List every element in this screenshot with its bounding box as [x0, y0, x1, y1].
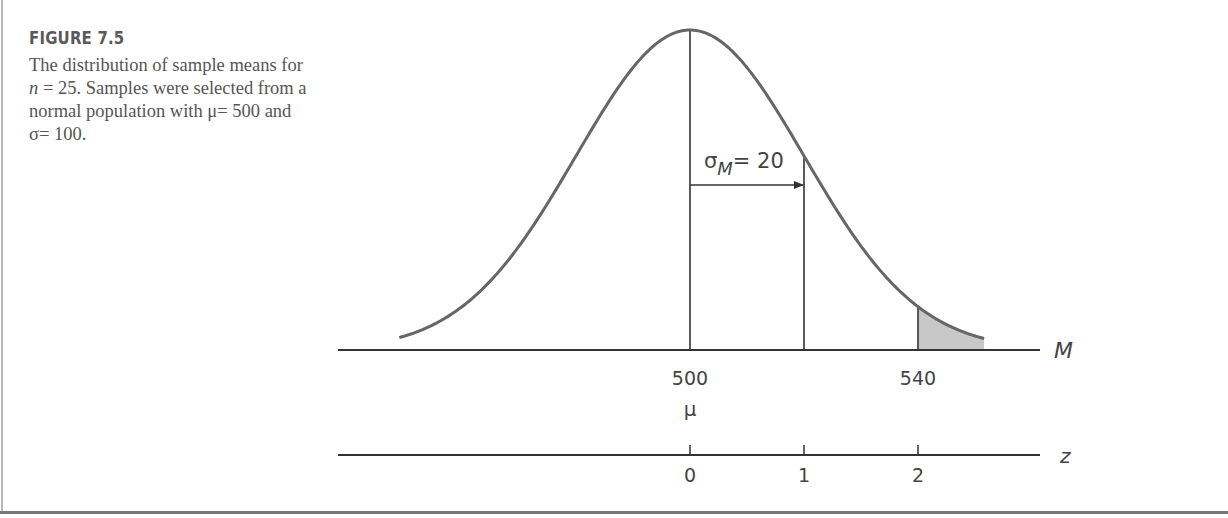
z-axis-tick-label: 2 — [912, 464, 924, 486]
m-axis-tick-label: 500 — [672, 367, 708, 389]
z-axis-label: z — [1059, 444, 1071, 468]
sigma-symbol: σ — [704, 149, 717, 173]
m-axis-label: M — [1054, 338, 1073, 363]
mu-label: μ — [684, 397, 697, 421]
sigma-subscript: M — [717, 158, 733, 179]
normal-distribution-chart: M 500μ540 z 012 σM= 20 — [0, 0, 1228, 518]
sigma-value: = 20 — [733, 149, 784, 173]
m-axis-tick-label: 540 — [900, 367, 936, 389]
z-axis-tick-label: 1 — [798, 464, 810, 486]
std-error-annotation: σM= 20 — [704, 149, 784, 179]
z-axis-tick-label: 0 — [684, 464, 696, 486]
